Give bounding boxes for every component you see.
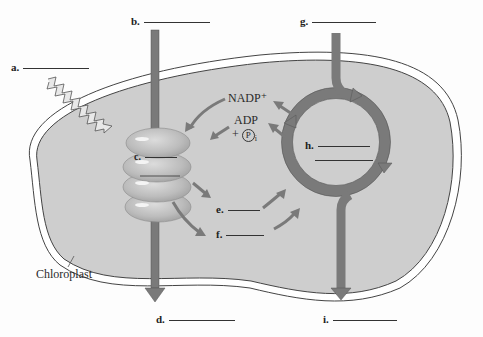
blank-c[interactable]: c. (134, 151, 177, 162)
blank-a-line (23, 68, 89, 69)
nadp-label: NADP⁺ (228, 91, 267, 106)
diagram-canvas: b. a. g. c. h. e. f. d. i. NADP⁺ ADP + P… (0, 0, 483, 337)
blank-c-label: c. (134, 151, 141, 162)
blank-d[interactable]: d. (156, 313, 235, 325)
blank-g-label: g. (300, 15, 308, 27)
blank-b[interactable]: b. (131, 15, 210, 27)
blank-b-line (144, 22, 210, 23)
blank-d-line (169, 320, 235, 321)
blank-a[interactable]: a. (11, 61, 89, 73)
thylakoid-stack (123, 128, 191, 222)
pi-label: + Pi (232, 127, 257, 143)
pi-letter: P (246, 130, 251, 140)
pi-plus: + (232, 127, 239, 141)
blank-h[interactable]: h. (305, 139, 370, 151)
blank-f[interactable]: f. (216, 228, 264, 240)
blank-b-label: b. (131, 15, 140, 27)
blank-e-label: e. (216, 203, 224, 215)
blank-c-line (145, 157, 177, 158)
diagram-graphic (0, 0, 483, 337)
arrow-d-head (145, 288, 165, 302)
blank-a-label: a. (11, 61, 19, 73)
blank-e-line (228, 210, 260, 211)
blank-i-line (333, 320, 397, 321)
blank-i[interactable]: i. (323, 313, 397, 325)
pi-subscript: i (255, 134, 257, 143)
blank-h-line (318, 146, 370, 147)
blank-g[interactable]: g. (300, 15, 376, 27)
phosphate-icon: P (242, 129, 255, 142)
adp-label: ADP (234, 113, 258, 128)
blank-h-line-2 (315, 160, 373, 161)
blank-d-label: d. (156, 313, 165, 325)
blank-h-label: h. (305, 139, 314, 151)
blank-f-label: f. (216, 228, 222, 240)
blank-e[interactable]: e. (216, 203, 260, 215)
chloroplast-label: Chloroplast (36, 267, 92, 282)
blank-g-line (312, 22, 376, 23)
blank-i-label: i. (323, 313, 329, 325)
blank-f-line (226, 235, 264, 236)
